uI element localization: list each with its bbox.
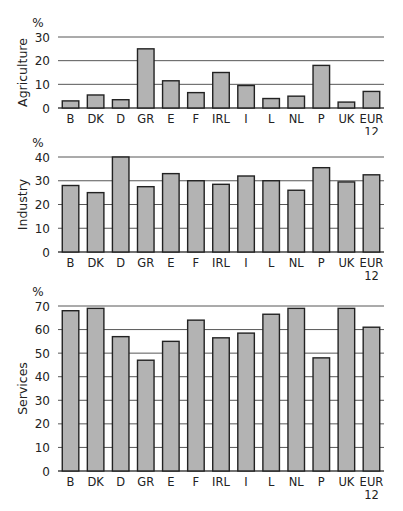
agriculture-x-category-label: F [193, 112, 200, 126]
industry-ytick-label: 40 [35, 151, 50, 165]
services-bar [213, 338, 230, 471]
services-bar [163, 341, 180, 471]
services-x-category-label: IRL [212, 475, 230, 489]
industry-bar [188, 181, 205, 252]
industry-ytick-label: 20 [35, 198, 50, 212]
agriculture-x-category-label: DK [87, 112, 104, 126]
agriculture-x-category-label: EUR [360, 112, 384, 126]
services-bar [238, 333, 255, 471]
agriculture-bar [238, 86, 255, 108]
services-x-category-label: NL [289, 475, 305, 489]
industry-bar [263, 181, 280, 252]
services-x-category-label: E [167, 475, 174, 489]
industry-bar [137, 187, 154, 252]
services-ytick-label: 10 [35, 441, 50, 455]
agriculture-bar [363, 91, 380, 108]
agriculture-chart: 0102030%AgricultureBDKDGREFIRLILNLPUKEUR… [0, 0, 403, 135]
industry-x-category-label: L [268, 256, 275, 270]
industry-bar [163, 174, 180, 252]
agriculture-bar [87, 95, 104, 108]
agriculture-bar [288, 96, 305, 108]
agriculture-x-category-label: NL [289, 112, 305, 126]
industry-ytick-label: 30 [35, 174, 50, 188]
services-y-axis-title: Services [15, 362, 30, 415]
industry-x-category-label: NL [289, 256, 305, 270]
agriculture-x-category-label: L [268, 112, 275, 126]
services-bar [62, 311, 79, 471]
agriculture-ytick-label: 0 [42, 102, 50, 116]
agriculture-x-category-label: GR [137, 112, 154, 126]
industry-x-category-label: E [167, 256, 174, 270]
agriculture-ytick-label: 10 [35, 78, 50, 92]
industry-bar [313, 168, 330, 252]
industry-bar [288, 190, 305, 252]
services-bar [87, 308, 104, 471]
agriculture-bar [338, 102, 355, 108]
services-bar [313, 358, 330, 471]
industry-bar [238, 176, 255, 252]
services-bar [288, 308, 305, 471]
industry-bar [363, 175, 380, 252]
industry-chart: 010203040%IndustryBDKDGREFIRLILNLPUKEUR1… [0, 135, 403, 280]
industry-x-category-label: DK [87, 256, 104, 270]
agriculture-bar [62, 101, 79, 108]
industry-bar [213, 184, 230, 252]
services-x-category-label: D [116, 475, 125, 489]
services-bar [188, 320, 205, 471]
agriculture-unit-label: % [32, 16, 43, 30]
services-ytick-label: 40 [35, 370, 50, 384]
agriculture-x-category-label: I [244, 112, 247, 126]
industry-x-category-label: EUR [360, 256, 384, 270]
services-ytick-label: 20 [35, 417, 50, 431]
services-x-category-label: F [193, 475, 200, 489]
industry-unit-label: % [32, 136, 43, 150]
agriculture-x-category-label: D [116, 112, 125, 126]
agriculture-ytick-label: 30 [35, 31, 50, 45]
agriculture-x-category-label: E [167, 112, 174, 126]
agriculture-x-category-label: P [318, 112, 325, 126]
services-ytick-label: 70 [35, 300, 50, 314]
agriculture-x-category-label: IRL [212, 112, 230, 126]
agriculture-bar [163, 81, 180, 108]
services-x-category-label-line2: 12 [364, 488, 379, 502]
services-x-category-label: P [318, 475, 325, 489]
services-ytick-label: 30 [35, 394, 50, 408]
industry-ytick-label: 0 [42, 246, 50, 260]
industry-y-axis-title: Industry [15, 178, 30, 230]
agriculture-y-axis-title: Agriculture [15, 38, 30, 107]
services-ytick-label: 0 [42, 465, 50, 479]
agriculture-ytick-label: 20 [35, 54, 50, 68]
industry-x-category-label: GR [137, 256, 154, 270]
industry-chart-svg: 010203040%IndustryBDKDGREFIRLILNLPUKEUR1… [0, 135, 403, 280]
services-chart-svg: 010203040506070%ServicesBDKDGREFIRLILNLP… [0, 280, 403, 511]
services-x-category-label: DK [87, 475, 104, 489]
agriculture-x-category-label-line2: 12 [364, 125, 379, 135]
agriculture-bar [112, 100, 129, 108]
services-bar [263, 314, 280, 471]
industry-ytick-label: 10 [35, 222, 50, 236]
services-chart: 010203040506070%ServicesBDKDGREFIRLILNLP… [0, 280, 403, 511]
agriculture-x-category-label: B [67, 112, 75, 126]
services-ytick-label: 50 [35, 347, 50, 361]
industry-x-category-label: F [193, 256, 200, 270]
agriculture-bar [313, 65, 330, 108]
agriculture-x-category-label: UK [338, 112, 354, 126]
industry-bar [87, 193, 104, 252]
services-x-category-label: EUR [360, 475, 384, 489]
industry-x-category-label: UK [338, 256, 354, 270]
industry-bar [338, 182, 355, 252]
services-x-category-label: I [244, 475, 247, 489]
industry-x-category-label: P [318, 256, 325, 270]
services-bar [112, 337, 129, 471]
industry-bar [62, 186, 79, 253]
services-x-category-label: GR [137, 475, 154, 489]
agriculture-bar [213, 73, 230, 109]
services-bar [363, 327, 380, 471]
agriculture-bar [188, 93, 205, 108]
industry-bar [112, 157, 129, 252]
services-x-category-label: B [67, 475, 75, 489]
industry-x-category-label: IRL [212, 256, 230, 270]
services-x-category-label: UK [338, 475, 354, 489]
services-bar [338, 308, 355, 471]
industry-x-category-label-line2: 12 [364, 269, 379, 280]
